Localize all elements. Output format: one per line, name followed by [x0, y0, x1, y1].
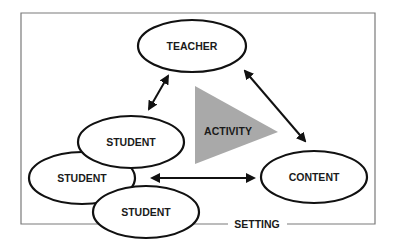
arrow-teacher-student [149, 76, 168, 109]
setting-label: SETTING [234, 218, 280, 230]
teacher-node: TEACHER [138, 20, 246, 72]
teacher-label: TEACHER [167, 40, 218, 52]
activity-label: ACTIVITY [204, 125, 252, 137]
student-label-middle: STUDENT [57, 172, 107, 184]
student-label-top: STUDENT [106, 136, 156, 148]
content-label: CONTENT [289, 171, 340, 183]
student-label-bottom: STUDENT [121, 206, 171, 218]
instructional-triangle-diagram: SETTING ACTIVITY TEACHER STUDENT STUDENT… [0, 0, 393, 249]
student-node-top: STUDENT [78, 116, 184, 168]
content-node: CONTENT [261, 151, 367, 203]
student-node-bottom: STUDENT [93, 186, 199, 238]
